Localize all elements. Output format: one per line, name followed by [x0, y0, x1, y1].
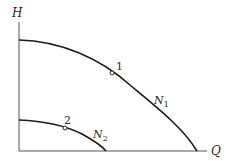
curve-n1-label: N1 [153, 94, 169, 109]
q-axis-label: Q [211, 144, 221, 158]
curve-n1 [19, 40, 197, 151]
point-1-label: 1 [116, 60, 123, 73]
h-axis-label: H [11, 6, 23, 20]
point-2-label: 2 [64, 114, 71, 127]
pump-characteristic-diagram: H Q 1 N1 2 N2 [0, 0, 233, 161]
operating-point-1 [110, 71, 114, 75]
curve-n2-label: N2 [92, 128, 108, 143]
